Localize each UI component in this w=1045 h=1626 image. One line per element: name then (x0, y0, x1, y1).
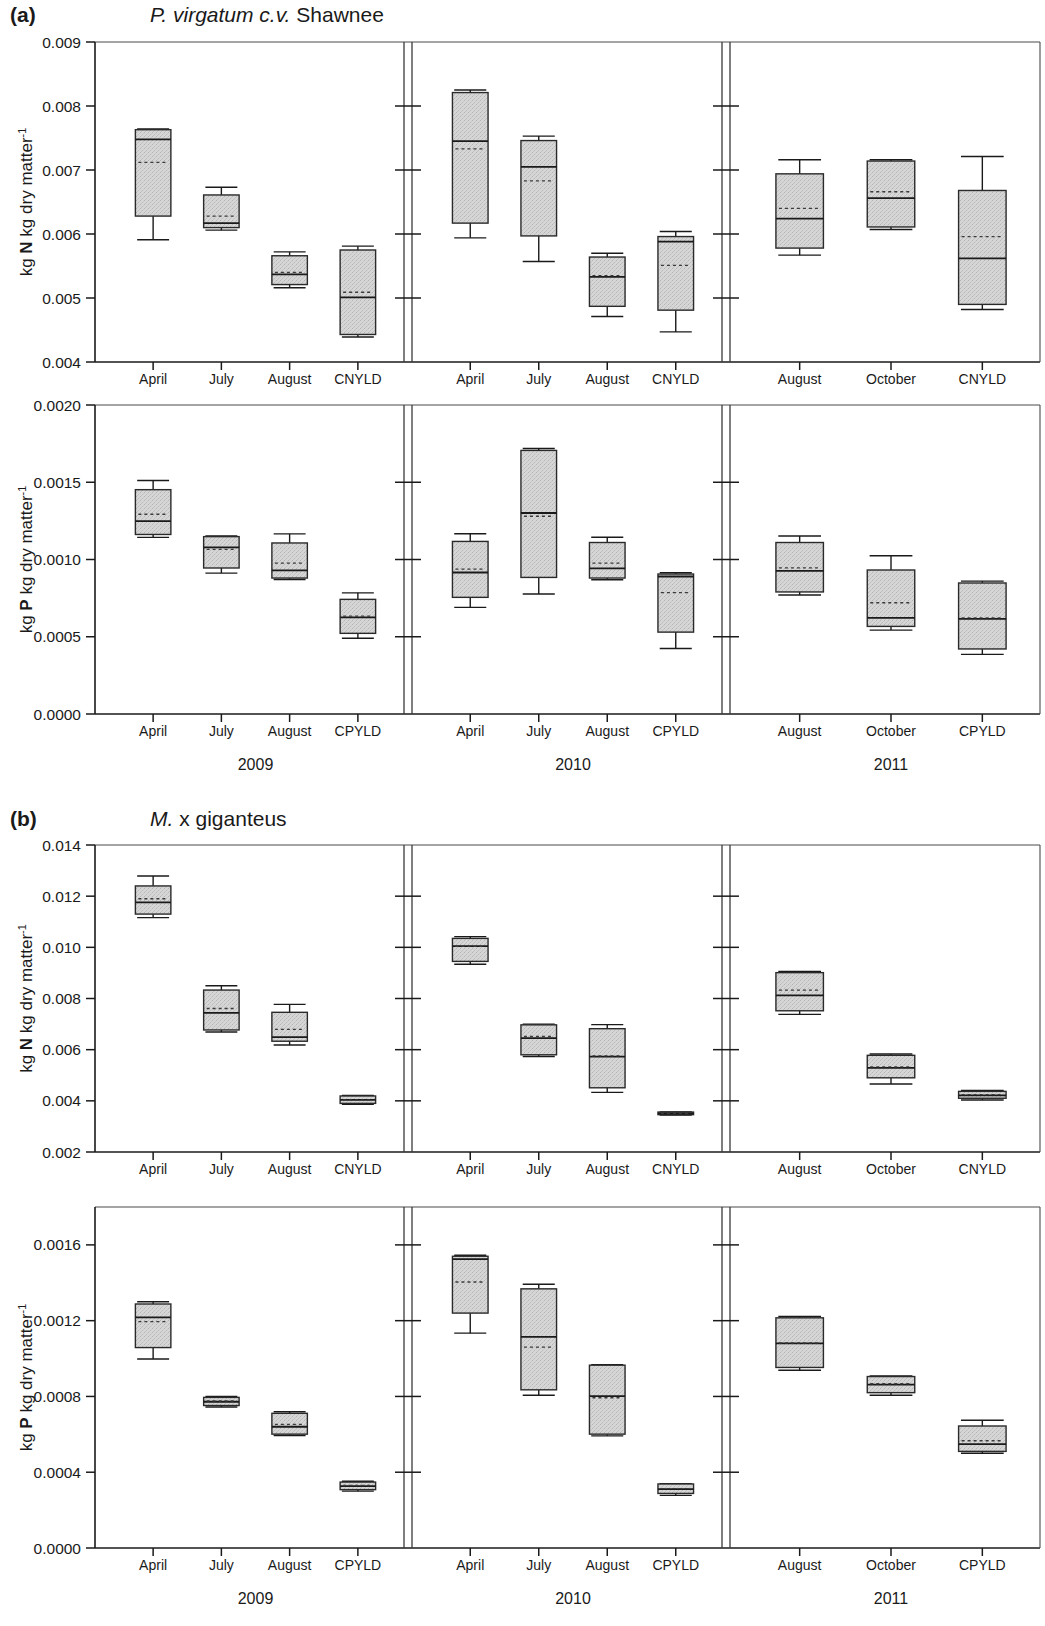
y-tick-label: 0.010 (42, 939, 81, 956)
year-label: 2010 (555, 756, 591, 773)
x-category-label: CPYLD (335, 1557, 382, 1573)
y-tick-label: 0.008 (42, 98, 81, 115)
y-tick-label: 0.0004 (34, 1464, 82, 1481)
x-category-label: April (139, 1161, 167, 1177)
x-category-label: October (866, 371, 916, 387)
species-name-roman: x giganteus (173, 807, 286, 830)
species-title-a: P. virgatum c.v. Shawnee (150, 3, 384, 26)
y-tick-label: 0.0005 (34, 628, 81, 645)
box-iqr (959, 583, 1006, 649)
y-tick-label: 0.0010 (34, 551, 82, 568)
axis-title-superscript: -1 (16, 486, 28, 496)
boxplot-2009-CNYLD (340, 246, 375, 337)
box-iqr (521, 1289, 557, 1390)
x-category-label: CPYLD (959, 1557, 1006, 1573)
boxplot-2010-CPYLD (658, 1484, 694, 1496)
x-category-label: CNYLD (652, 371, 699, 387)
box-iqr (589, 543, 625, 579)
x-category-label: CNYLD (959, 1161, 1006, 1177)
boxplot-2009-August (272, 252, 307, 288)
y-tick-label: 0.008 (42, 990, 81, 1007)
y-tick-label: 0.0008 (34, 1388, 81, 1405)
y-tick-label: 0.0016 (34, 1236, 81, 1253)
year-label: 2011 (874, 756, 909, 773)
x-category-label: August (585, 371, 629, 387)
x-category-label: August (268, 1161, 312, 1177)
axis-title-post: kg dry matter (17, 137, 36, 241)
box-iqr (452, 1256, 488, 1313)
boxplot-2009-CPYLD (340, 593, 375, 638)
x-category-label: CNYLD (959, 371, 1006, 387)
boxplot-2009-CNYLD (340, 1095, 375, 1104)
species-title-b: M. x giganteus (150, 807, 287, 830)
y-axis-title-nitrogen: kg N kg dry matter-1 (16, 924, 36, 1073)
species-name-italic: M. (150, 807, 173, 830)
x-category-label: CNYLD (334, 1161, 381, 1177)
box-iqr (521, 450, 557, 577)
figure-root: (a)P. virgatum c.v. Shawneekg N kg dry m… (0, 0, 1045, 1626)
x-category-label: CNYLD (652, 1161, 699, 1177)
x-category-label: July (526, 723, 551, 739)
box-iqr (776, 174, 823, 248)
x-category-label: CPYLD (959, 723, 1006, 739)
x-category-label: August (778, 1557, 822, 1573)
boxplot-2009-July (204, 986, 239, 1032)
boxplot-2010-August (589, 1025, 625, 1093)
boxplot-2011-August (776, 160, 823, 255)
y-tick-label: 0.004 (42, 1092, 81, 1109)
box-iqr (521, 1025, 557, 1055)
boxplot-2010-April (452, 534, 488, 608)
x-category-label: July (209, 1557, 234, 1573)
y-tick-label: 0.002 (42, 1144, 81, 1161)
x-category-label: April (139, 371, 167, 387)
panel-letter-a: (a) (10, 3, 36, 26)
axis-title-pre: kg (17, 1429, 36, 1452)
box-iqr (959, 190, 1006, 304)
box-iqr (135, 130, 170, 216)
x-category-label: August (585, 1557, 629, 1573)
year-label: 2011 (874, 1590, 909, 1607)
axis-title-element: P (17, 1417, 36, 1428)
axis-title-superscript: -1 (16, 924, 28, 934)
x-category-label: CNYLD (334, 371, 381, 387)
y-tick-label: 0.006 (42, 1041, 81, 1058)
axis-title-superscript: -1 (16, 1304, 28, 1314)
x-category-label: July (209, 371, 234, 387)
box-iqr (589, 257, 625, 306)
year-label: 2010 (555, 1590, 591, 1607)
x-category-label: August (778, 371, 822, 387)
x-category-label: July (209, 1161, 234, 1177)
boxplot-2010-August (589, 537, 625, 579)
y-tick-label: 0.005 (42, 290, 81, 307)
box-iqr (521, 141, 557, 236)
boxplot-2009-CPYLD (340, 1481, 375, 1491)
panel-letter-b: (b) (10, 807, 37, 830)
box-iqr (867, 161, 914, 227)
axis-title-element: N (17, 1038, 36, 1050)
y-tick-label: 0.007 (42, 162, 81, 179)
y-tick-label: 0.0000 (34, 706, 82, 723)
box-iqr (272, 543, 307, 578)
x-category-label: CPYLD (652, 723, 699, 739)
boxplot-2010-August (589, 1365, 625, 1436)
boxplot-2010-July (521, 449, 557, 594)
species-name-roman: Shawnee (290, 3, 383, 26)
x-category-label: August (778, 1161, 822, 1177)
x-category-label: October (866, 1161, 916, 1177)
x-category-label: CPYLD (652, 1557, 699, 1573)
y-tick-label: 0.006 (42, 226, 81, 243)
box-iqr (589, 1365, 625, 1434)
x-category-label: July (209, 723, 234, 739)
box-iqr (135, 1304, 170, 1348)
boxplot-2011-CPYLD (959, 581, 1006, 654)
boxplot-2011-CNYLD (959, 1090, 1006, 1100)
box-iqr (776, 973, 823, 1011)
axis-title-pre: kg (17, 254, 36, 277)
y-tick-label: 0.0000 (34, 1540, 82, 1557)
y-axis-title-nitrogen: kg N kg dry matter-1 (16, 128, 36, 277)
x-category-label: July (526, 371, 551, 387)
axis-title-post: kg dry matter (17, 934, 36, 1038)
axis-title-superscript: -1 (16, 128, 28, 138)
box-iqr (135, 490, 170, 535)
x-category-label: July (526, 1557, 551, 1573)
